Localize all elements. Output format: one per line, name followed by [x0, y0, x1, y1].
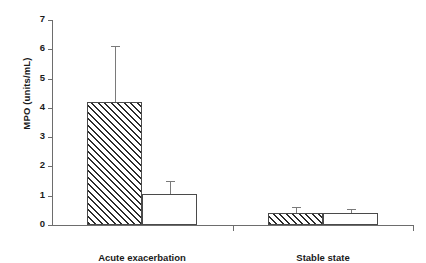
bar-stable-state-open — [323, 213, 378, 225]
bar-acute-exacerbation-open — [142, 194, 197, 225]
y-tick-mark — [48, 108, 53, 109]
plot-area: 0 1 2 3 4 5 6 7 — [52, 20, 414, 225]
y-tick-label: 4 — [40, 101, 45, 112]
bar-stable-state-hatched — [268, 213, 323, 225]
y-axis-title: MPO (units/mL) — [21, 14, 32, 174]
y-tick-label: 3 — [40, 130, 45, 141]
y-tick-label: 5 — [40, 72, 45, 83]
x-axis-separator-tick — [233, 225, 234, 231]
y-tick-mark — [48, 225, 53, 226]
x-group-label-acute-exacerbation: Acute exacerbation — [98, 252, 186, 263]
x-group-label-stable-state: Stable state — [296, 252, 349, 263]
x-axis-separator-tick — [413, 225, 414, 231]
error-bar-acute-exacerbation-hatched — [115, 46, 116, 102]
error-bar-cap — [292, 207, 301, 208]
y-tick-label: 6 — [40, 42, 45, 53]
y-tick-mark — [48, 79, 53, 80]
y-tick-mark — [48, 137, 53, 138]
error-bar-cap — [347, 209, 356, 210]
error-bar-cap — [166, 181, 175, 182]
y-tick-label: 7 — [40, 13, 45, 24]
y-tick-label: 2 — [40, 159, 45, 170]
y-tick-mark — [48, 196, 53, 197]
y-tick-mark — [48, 49, 53, 50]
y-tick-label: 1 — [40, 189, 45, 200]
bar-acute-exacerbation-hatched — [87, 102, 142, 225]
y-tick-label: 0 — [40, 218, 45, 229]
error-bar-cap — [111, 46, 120, 47]
y-tick-mark — [48, 166, 53, 167]
error-bar-acute-exacerbation-open — [170, 181, 171, 194]
y-tick-mark — [48, 20, 53, 21]
